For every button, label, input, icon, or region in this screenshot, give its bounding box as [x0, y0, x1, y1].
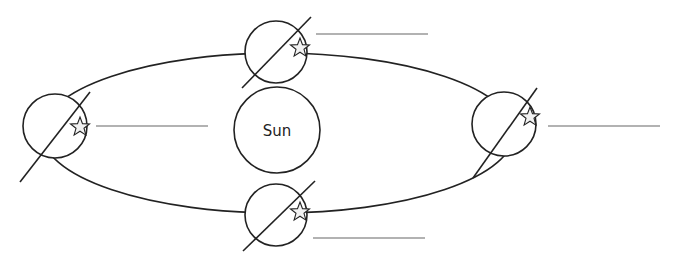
sun: Sun — [234, 87, 320, 173]
earth-right — [472, 88, 660, 178]
earth-positions — [20, 17, 660, 251]
earth-top — [242, 17, 428, 88]
earth-bottom — [243, 181, 425, 251]
orbit-diagram: Sun — [0, 0, 677, 270]
sun-label: Sun — [263, 122, 292, 140]
earth-left — [20, 92, 208, 182]
